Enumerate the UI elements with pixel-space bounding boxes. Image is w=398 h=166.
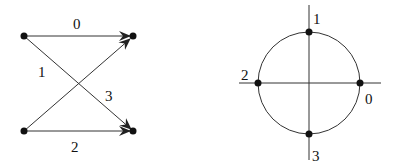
point-label-1: 1 (313, 11, 321, 27)
node-right-top (130, 33, 137, 40)
node-right-bottom (130, 128, 137, 135)
edge-3 (24, 39, 130, 131)
edge-label-0: 0 (73, 16, 81, 32)
node-left-bottom (21, 128, 28, 135)
point-label-2: 2 (241, 67, 249, 83)
point-1 (306, 29, 313, 36)
point-3 (306, 131, 313, 138)
unit-circle-diagram: 0 1 2 3 (239, 5, 381, 164)
figure: 0 1 2 3 0 1 2 3 (0, 0, 398, 166)
edge-label-2: 2 (71, 139, 79, 155)
point-label-0: 0 (365, 91, 373, 107)
bipartite-graph: 0 1 2 3 (21, 16, 137, 155)
edge-label-3: 3 (105, 88, 113, 104)
point-label-3: 3 (312, 148, 320, 164)
point-0 (357, 80, 364, 87)
node-left-top (21, 33, 28, 40)
edge-label-1: 1 (38, 64, 46, 80)
point-2 (255, 80, 262, 87)
edge-1 (24, 36, 131, 129)
